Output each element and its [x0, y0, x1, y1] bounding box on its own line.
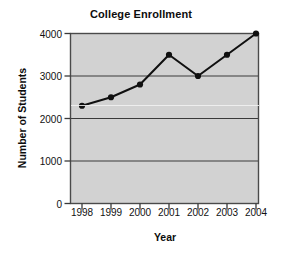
- chart-figure: College Enrollment Number of Students: [0, 0, 282, 253]
- x-tick-label-2004: 2004: [238, 207, 274, 218]
- x-axis-tick-labels: 1998199920002001200220032004: [0, 0, 282, 253]
- x-axis-title: Year: [70, 231, 260, 243]
